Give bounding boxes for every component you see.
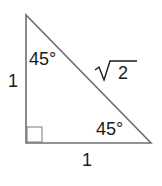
radical-sign-icon xyxy=(95,61,137,80)
hypotenuse-label: 2 xyxy=(95,61,137,83)
top-angle-label: 45° xyxy=(29,49,56,69)
right-angle-marker xyxy=(27,127,42,142)
bottom-right-angle-label: 45° xyxy=(96,119,123,139)
triangle-diagram: 45° 45° 1 1 2 xyxy=(0,0,162,186)
bottom-side-label: 1 xyxy=(82,150,92,170)
hypotenuse-radicand: 2 xyxy=(118,63,128,83)
triangle-shape xyxy=(26,15,151,143)
left-side-label: 1 xyxy=(8,71,18,91)
